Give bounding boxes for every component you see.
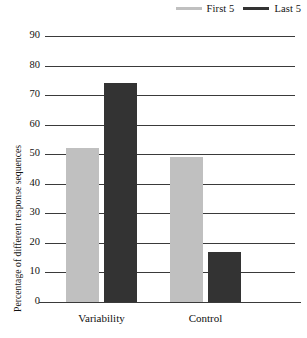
x-axis-baseline [39, 302, 301, 303]
bar-variability-first-5 [66, 148, 99, 302]
bar-control-last-5 [208, 252, 241, 302]
gridline-60: 60 [45, 125, 295, 126]
plot-area: 0102030405060708090 [45, 10, 295, 312]
bar-variability-last-5 [104, 83, 137, 302]
y-axis-title-text: Percentage of different response sequenc… [12, 145, 23, 312]
y-tick-label-60: 60 [30, 118, 41, 129]
y-axis-title: Percentage of different response sequenc… [0, 0, 16, 338]
y-tick-label-10: 10 [30, 266, 41, 277]
y-tick-label-50: 50 [30, 148, 41, 159]
bar-chart-figure: First 5 Last 5 Percentage of different r… [0, 0, 307, 338]
y-tick-label-30: 30 [30, 207, 41, 218]
y-tick-label-40: 40 [30, 177, 41, 188]
y-tick-label-80: 80 [30, 59, 41, 70]
gridline-70: 70 [45, 95, 295, 96]
x-axis-category-labels: VariabilityControl [45, 312, 295, 330]
y-tick-label-0: 0 [35, 295, 40, 306]
x-category-label-control: Control [189, 312, 223, 324]
gridline-80: 80 [45, 66, 295, 67]
y-tick-label-70: 70 [30, 89, 41, 100]
y-tick-label-90: 90 [30, 29, 41, 40]
y-tick-label-20: 20 [30, 236, 41, 247]
gridline-90: 90 [45, 36, 295, 37]
x-category-label-variability: Variability [78, 312, 124, 324]
bar-control-first-5 [170, 157, 203, 302]
